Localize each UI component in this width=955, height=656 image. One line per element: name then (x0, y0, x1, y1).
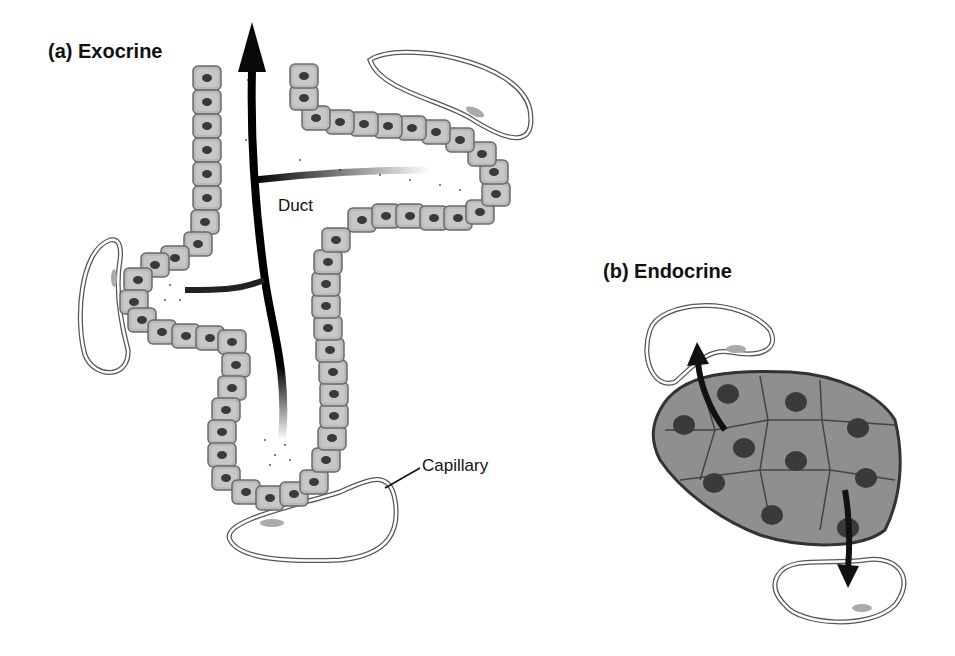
duct-label: Duct (278, 196, 313, 216)
endocrine-cell-cluster (653, 371, 900, 545)
panel-b-title: (b) Endocrine (603, 260, 732, 283)
exocrine-epithelium (120, 64, 510, 510)
panel-a-title: (a) Exocrine (48, 40, 162, 63)
gland-diagram (0, 0, 955, 656)
capillary-label: Capillary (422, 456, 488, 476)
capillary-leader-line (385, 468, 420, 488)
